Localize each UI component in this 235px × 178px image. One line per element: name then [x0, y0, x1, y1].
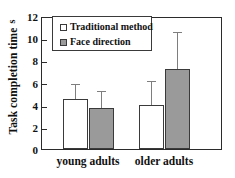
bar-older-traditional — [139, 105, 164, 149]
errorbar-older-traditional — [151, 82, 152, 105]
legend: Traditional method Face direction — [52, 16, 152, 51]
y-axis-tickmark-2 — [42, 129, 47, 130]
bar-young-face-direction — [89, 108, 114, 149]
errorbar-cap-older-traditional — [147, 81, 156, 82]
errorbar-cap-young-traditional — [71, 84, 80, 85]
y-axis-tick-labels: 12 10 8 6 4 2 0 — [18, 0, 38, 178]
y-tick-label-8: 8 — [20, 56, 38, 67]
y-axis-unit: s — [6, 12, 17, 32]
y-tick-label-6: 6 — [20, 79, 38, 90]
y-axis-tickmark-4 — [42, 107, 47, 108]
errorbar-cap-young-face-direction — [97, 91, 106, 92]
errorbar-older-face-direction — [177, 33, 178, 69]
errorbar-young-traditional — [75, 85, 76, 99]
legend-item-traditional-method: Traditional method — [60, 20, 151, 34]
bar-older-face-direction — [165, 69, 190, 149]
y-tick-label-10: 10 — [20, 34, 38, 45]
errorbar-young-face-direction — [101, 92, 102, 108]
open-square-icon — [60, 24, 67, 31]
y-axis-tickmark-6 — [42, 84, 47, 85]
bar-chart-figure: Task completion time s 12 10 8 6 4 2 0 — [0, 0, 235, 178]
y-tick-label-12: 12 — [20, 12, 38, 23]
bar-young-traditional — [63, 99, 88, 149]
y-tick-label-0: 0 — [20, 145, 38, 156]
y-tick-label-4: 4 — [20, 101, 38, 112]
errorbar-cap-older-face-direction — [173, 32, 182, 33]
filled-square-icon — [60, 39, 67, 46]
legend-label-traditional-method: Traditional method — [70, 22, 153, 32]
x-axis-label-older-adults: older adults — [124, 155, 204, 167]
x-axis-label-young-adults: young adults — [48, 155, 128, 167]
y-axis-tickmark-8 — [42, 62, 47, 63]
y-tick-label-2: 2 — [20, 123, 38, 134]
y-axis-tickmark-10 — [42, 40, 47, 41]
legend-label-face-direction: Face direction — [70, 37, 131, 47]
legend-item-face-direction: Face direction — [60, 35, 151, 49]
